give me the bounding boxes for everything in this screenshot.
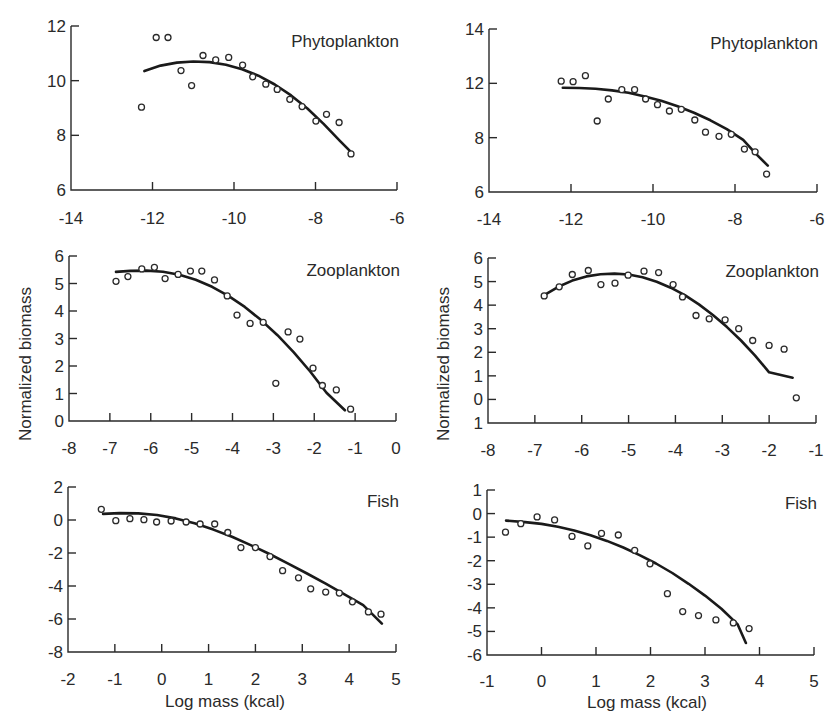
data-point xyxy=(585,543,591,549)
chart-canvas: 681012-14-12-10-8-6Phytoplankton681214-1… xyxy=(0,0,829,724)
data-point xyxy=(125,274,131,280)
y-tick-label: 8 xyxy=(57,126,66,145)
data-point xyxy=(212,277,218,283)
y-tick-label: 1 xyxy=(474,367,483,386)
x-tick-label: -7 xyxy=(102,439,117,458)
data-point xyxy=(664,591,670,597)
x-tick-label: -6 xyxy=(143,439,158,458)
data-point xyxy=(313,118,319,124)
x-axis-title-right: Log mass (kcal) xyxy=(587,693,707,712)
x-tick-label: -4 xyxy=(668,441,683,460)
figure: 681012-14-12-10-8-6Phytoplankton681214-1… xyxy=(0,0,829,724)
data-point xyxy=(348,151,354,157)
fit-curve xyxy=(544,274,792,378)
panel-phyto-right: 681214-14-12-10-8-6Phytoplankton xyxy=(465,20,824,229)
data-point xyxy=(766,342,772,348)
y-tick-label: 6 xyxy=(55,247,64,266)
x-tick-label: -14 xyxy=(59,209,84,228)
panel-fish-left: -8-6-4-202-2-1012345Fish xyxy=(48,478,401,689)
data-point xyxy=(678,106,684,112)
data-point xyxy=(226,54,232,60)
data-point xyxy=(680,609,686,615)
y-tick-label: -6 xyxy=(48,610,63,629)
data-point xyxy=(764,171,770,177)
data-point xyxy=(187,268,193,274)
data-point xyxy=(299,104,305,110)
data-point xyxy=(750,338,756,344)
y-tick-label: -2 xyxy=(467,552,482,571)
data-point xyxy=(746,626,752,632)
data-point xyxy=(189,83,195,89)
panel-title: Zooplankton xyxy=(306,261,400,280)
data-point xyxy=(127,516,133,522)
fit-curve xyxy=(563,88,768,166)
panel-zoo-left: 0123456-8-7-6-5-4-3-2-10Zooplankton xyxy=(55,247,401,458)
x-axis-title-left: Log mass (kcal) xyxy=(165,692,285,711)
axis-lines xyxy=(488,258,816,423)
data-point xyxy=(260,319,266,325)
y-tick-label: 3 xyxy=(474,320,483,339)
data-point xyxy=(285,329,291,335)
data-point xyxy=(706,316,712,322)
panel-fish-right: -6-5-4-3-2-101-1012345Fish xyxy=(467,481,819,691)
y-tick-label: -1 xyxy=(467,528,482,547)
data-point xyxy=(541,293,547,299)
y-tick-label: 2 xyxy=(54,478,63,497)
x-tick-label: -3 xyxy=(715,441,730,460)
x-tick-label: -8 xyxy=(61,439,76,458)
y-tick-label: 1 xyxy=(55,385,64,404)
x-tick-label: -2 xyxy=(307,439,322,458)
data-point xyxy=(716,133,722,139)
x-tick-label: 3 xyxy=(700,672,709,691)
x-tick-label: 5 xyxy=(391,670,400,689)
x-tick-label: -8 xyxy=(727,210,742,229)
axis-lines xyxy=(489,29,817,192)
y-tick-label: 0 xyxy=(474,390,483,409)
data-point xyxy=(287,96,293,102)
data-point xyxy=(625,272,631,278)
y-tick-label: 0 xyxy=(473,505,482,524)
x-tick-label: -6 xyxy=(389,209,404,228)
x-tick-label: -4 xyxy=(225,439,240,458)
data-point xyxy=(178,68,184,74)
data-point xyxy=(113,278,119,284)
data-point xyxy=(556,284,562,290)
data-point xyxy=(518,521,524,527)
data-point xyxy=(280,568,286,574)
fit-curve xyxy=(506,521,746,643)
y-tick-label: 3 xyxy=(55,330,64,349)
x-tick-label: -5 xyxy=(184,439,199,458)
axis-lines xyxy=(68,487,396,652)
data-point xyxy=(655,102,661,108)
data-point xyxy=(247,320,253,326)
panel-zoo-right: 10123456-8-7-6-5-4-3-2-1Zooplankton xyxy=(474,249,824,460)
panel-phyto-left: 681012-14-12-10-8-6Phytoplankton xyxy=(47,17,404,228)
data-point xyxy=(696,613,702,619)
fit-curve xyxy=(116,271,345,411)
data-point xyxy=(165,35,171,41)
fit-curve xyxy=(144,62,350,152)
data-point xyxy=(224,293,230,299)
y-tick-label: -4 xyxy=(48,577,63,596)
data-point xyxy=(240,62,246,68)
data-point xyxy=(582,73,588,79)
x-tick-label: 1 xyxy=(204,670,213,689)
data-point xyxy=(175,271,181,277)
data-point xyxy=(213,57,219,63)
y-tick-label: 10 xyxy=(47,72,66,91)
x-tick-label: 0 xyxy=(537,672,546,691)
data-point xyxy=(534,514,540,520)
y-tick-label: 1 xyxy=(474,414,483,433)
x-tick-label: 5 xyxy=(809,672,818,691)
data-point xyxy=(200,53,206,59)
data-point xyxy=(297,336,303,342)
data-point xyxy=(503,529,509,535)
data-point xyxy=(162,276,168,282)
y-tick-label: 6 xyxy=(57,181,66,200)
x-tick-label: 3 xyxy=(298,670,307,689)
x-tick-label: 0 xyxy=(157,670,166,689)
data-point xyxy=(250,74,256,80)
data-point xyxy=(365,609,371,615)
x-tick-label: -8 xyxy=(480,441,495,460)
data-point xyxy=(632,87,638,93)
